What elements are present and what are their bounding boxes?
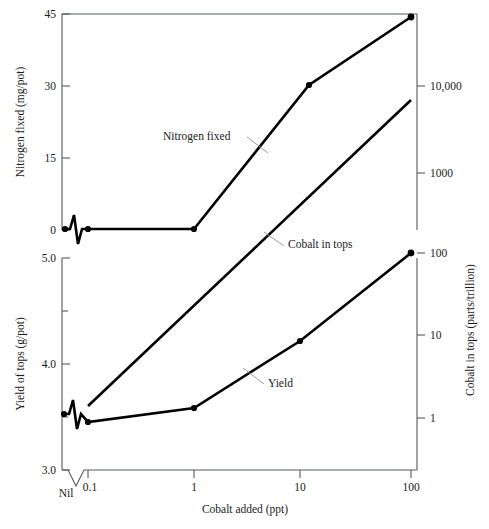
lower-ytick-5-0: 5.0 — [42, 252, 57, 264]
annotation-nitrogen-fixed-label: Nitrogen fixed — [163, 130, 231, 143]
series-cobalt-in-tops-line — [88, 100, 411, 406]
xtick-100: 100 — [402, 481, 420, 493]
upper-right-axis-ticks — [417, 86, 425, 173]
right-ytick-10000: 10,000 — [430, 80, 462, 93]
upper-ytick-30: 30 — [45, 80, 57, 92]
right-ytick-1000: 1000 — [430, 167, 453, 179]
right-ytick-10: 10 — [430, 329, 442, 341]
upper-panel: 0 15 30 45 Nitrogen fixed (mg/pot) 10,00… — [14, 8, 462, 244]
upper-ytick-0: 0 — [50, 224, 56, 236]
series-yield-line — [64, 253, 411, 429]
lower-ytick-3-0: 3.0 — [42, 464, 57, 476]
lower-panel: 5.0 4.0 3.0 Yield of tops (g/pot) 100 10… — [14, 100, 477, 516]
upper-ytick-45: 45 — [45, 8, 57, 20]
right-ytick-1: 1 — [430, 412, 436, 424]
lower-panel-xaxis — [62, 470, 417, 486]
annotation-yield-label: Yield — [268, 377, 293, 389]
lower-left-axis-ticks — [62, 258, 70, 470]
xtick-nil: Nil — [59, 487, 74, 499]
upper-panel-frame — [62, 14, 417, 230]
lower-y-axis-title: Yield of tops (g/pot) — [14, 317, 27, 411]
figure-container: 0 15 30 45 Nitrogen fixed (mg/pot) 10,00… — [0, 0, 489, 529]
right-y-axis-title: Cobalt in tops (parts/trillion) — [464, 264, 477, 396]
right-ytick-100: 100 — [430, 247, 448, 259]
series-yield-markers — [61, 250, 415, 426]
upper-left-axis-ticks — [62, 14, 70, 230]
annotation-cobalt-in-tops-leader — [264, 232, 284, 246]
x-axis-ticks — [88, 470, 411, 478]
upper-ytick-15: 15 — [45, 152, 57, 164]
lower-ytick-4-0: 4.0 — [42, 358, 57, 370]
series-nitrogen-fixed-markers — [62, 14, 415, 233]
x-axis-title: Cobalt added (ppt) — [202, 503, 288, 516]
xtick-10: 10 — [294, 481, 306, 493]
series-nitrogen-fixed-line — [65, 17, 411, 244]
xtick-1: 1 — [191, 481, 197, 493]
lower-right-axis-ticks — [417, 253, 425, 418]
annotation-cobalt-in-tops-label: Cobalt in tops — [288, 238, 353, 251]
upper-y-axis-title: Nitrogen fixed (mg/pot) — [14, 67, 27, 178]
xtick-0-1: 0.1 — [83, 481, 98, 493]
chart-svg: 0 15 30 45 Nitrogen fixed (mg/pot) 10,00… — [0, 0, 489, 529]
